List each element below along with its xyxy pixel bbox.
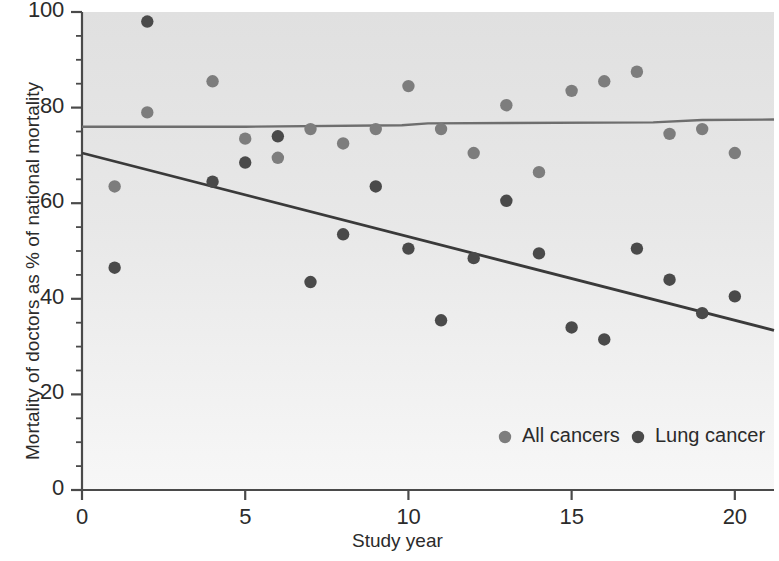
- plot-background: [82, 12, 774, 490]
- legend-label-lung-cancer: Lung cancer: [655, 424, 765, 447]
- y-tick-label: 100: [28, 0, 64, 23]
- scatter-plot-figure: 020406080100 05101520 Mortality of docto…: [0, 0, 779, 561]
- x-tick-label: 20: [723, 504, 747, 530]
- x-tick-label: 0: [70, 504, 94, 530]
- y-tick-label: 0: [52, 475, 64, 501]
- x-tick-label: 10: [396, 504, 420, 530]
- x-tick-label: 15: [560, 504, 584, 530]
- x-axis-title: Study year: [352, 530, 443, 552]
- x-tick-label: 5: [233, 504, 257, 530]
- plot-canvas: [0, 0, 779, 561]
- legend-label-all-cancers: All cancers: [522, 424, 620, 447]
- y-axis-title: Mortality of doctors as % of national mo…: [22, 82, 44, 460]
